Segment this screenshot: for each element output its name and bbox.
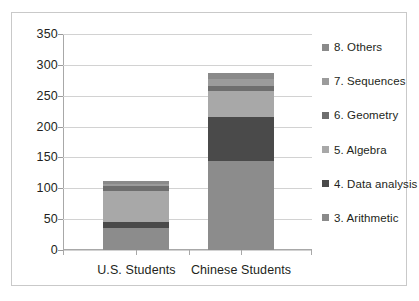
legend-swatch-icon [322,44,329,51]
gridline-0 [63,250,312,251]
y-axis-label-300: 300 [37,58,58,72]
gridline-200 [63,127,312,128]
bar-segment[interactable] [208,117,274,161]
legend-item[interactable]: 3. Arithmetic [322,212,419,224]
gridline-350 [63,34,312,35]
y-axis-label-100: 100 [37,181,58,195]
gridline-100 [63,188,312,189]
x-tick-boundary [63,250,64,255]
y-axis-label-0: 0 [51,243,58,257]
x-tick [241,250,242,255]
legend-label: 4. Data analysis [334,178,417,190]
y-tick-50 [58,219,63,220]
y-tick-100 [58,188,63,189]
x-tick-boundary [189,250,190,255]
legend-label: 7. Sequences [334,75,406,87]
legend-label: 3. Arithmetic [334,212,399,224]
gridline-300 [63,65,312,66]
x-tick [136,250,137,255]
legend-item[interactable]: 8. Others [322,41,419,53]
bar-segment[interactable] [103,191,169,222]
bar-column[interactable]: U.S. Students [103,34,169,250]
y-tick-350 [58,34,63,35]
y-axis-label-250: 250 [37,89,58,103]
plot-area: U.S. StudentsChinese Students [63,34,312,250]
bar-stack [208,73,274,250]
bar-column[interactable]: Chinese Students [208,34,274,250]
chart-frame: 050100150200250300350 U.S. StudentsChine… [11,12,407,286]
legend-label: 5. Algebra [334,144,387,156]
legend-label: 6. Geometry [334,109,398,121]
y-tick-250 [58,96,63,97]
legend-swatch-icon [322,214,329,221]
legend-item[interactable]: 4. Data analysis [322,178,419,190]
y-axis-label-200: 200 [37,120,58,134]
legend-item[interactable]: 6. Geometry [322,109,419,121]
x-axis-category-label: U.S. Students [97,263,175,277]
gridline-50 [63,219,312,220]
x-axis-category-label: Chinese Students [191,263,291,277]
y-axis-label-50: 50 [44,212,58,226]
chart-legend: 8. Others7. Sequences6. Geometry5. Algeb… [322,41,419,246]
legend-swatch-icon [322,78,329,85]
y-tick-300 [58,65,63,66]
bar-segment[interactable] [208,91,274,116]
bar-stack [103,181,169,250]
y-tick-200 [58,127,63,128]
legend-swatch-icon [322,146,329,153]
y-axis-label-150: 150 [37,150,58,164]
bar-segment[interactable] [208,161,274,250]
legend-item[interactable]: 5. Algebra [322,144,419,156]
legend-label: 8. Others [334,41,382,53]
bar-segment[interactable] [103,228,169,250]
y-axis-line [63,34,64,250]
legend-swatch-icon [322,112,329,119]
gridline-150 [63,157,312,158]
legend-item[interactable]: 7. Sequences [322,75,419,87]
y-tick-150 [58,157,63,158]
bar-segment[interactable] [208,79,274,86]
y-axis-labels: 050100150200250300350 [25,34,58,250]
legend-swatch-icon [322,180,329,187]
gridline-250 [63,96,312,97]
x-tick-boundary [311,250,312,255]
y-axis-label-350: 350 [37,27,58,41]
